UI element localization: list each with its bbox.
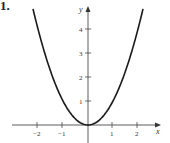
x-tick-label: 2 bbox=[135, 130, 139, 138]
y-axis-arrow-icon bbox=[86, 6, 91, 12]
y-tick-label: 3 bbox=[79, 50, 83, 58]
y-tick-label: 1 bbox=[79, 98, 83, 106]
y-tick-label: 4 bbox=[79, 26, 83, 34]
y-ticks: 1 2 3 4 bbox=[79, 26, 91, 106]
y-tick-label: 2 bbox=[79, 74, 83, 82]
x-tick-label: 1 bbox=[110, 130, 114, 138]
y-axis-label: y bbox=[78, 5, 83, 14]
x-tick-label: −2 bbox=[33, 130, 41, 138]
x-axis-label: x bbox=[155, 127, 160, 136]
parabola-chart: −2 −1 1 2 1 2 3 4 x y bbox=[0, 0, 170, 143]
x-tick-label: −1 bbox=[58, 130, 66, 138]
